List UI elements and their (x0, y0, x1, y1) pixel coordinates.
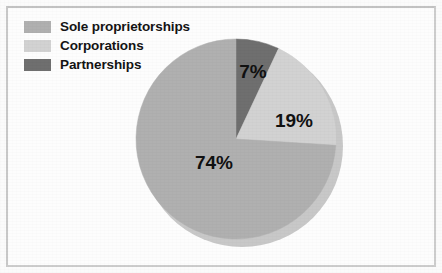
legend-swatch-sole-proprietorships (24, 21, 51, 33)
legend-item-corporations[interactable]: Corporations (24, 37, 190, 55)
pie-label-sole-proprietorships: 74% (195, 152, 233, 173)
pie-label-corporations: 19% (275, 110, 313, 131)
legend-label-sole-proprietorships: Sole proprietorships (60, 20, 190, 34)
legend-item-partnerships[interactable]: Partnerships (24, 56, 190, 74)
legend: Sole proprietorships Corporations Partne… (24, 18, 190, 75)
legend-item-sole-proprietorships[interactable]: Sole proprietorships (24, 18, 190, 36)
legend-swatch-partnerships (24, 59, 51, 71)
legend-swatch-corporations (24, 40, 51, 52)
legend-label-partnerships: Partnerships (60, 58, 141, 72)
legend-label-corporations: Corporations (60, 39, 144, 53)
figure-root: 7%19%74% Sole proprietorships Corporatio… (0, 0, 442, 273)
pie-label-partnerships: 7% (239, 61, 267, 82)
